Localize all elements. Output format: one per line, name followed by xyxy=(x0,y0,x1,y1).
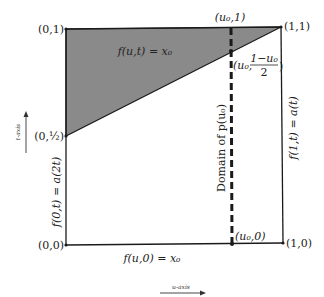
point-0-half xyxy=(64,134,67,137)
shaded-region xyxy=(66,27,281,136)
u-axis-arrowhead-icon xyxy=(200,291,206,296)
label-u0-0: (u₀,0) xyxy=(235,230,266,243)
left-edge-label: f(0,t) = a(2t) xyxy=(50,157,63,228)
label-0-0: (0,0) xyxy=(38,239,64,252)
t-axis-arrowhead-icon xyxy=(24,111,29,117)
label-u0-mid-denominator: 2 xyxy=(261,66,268,79)
label-0-1: (0,1) xyxy=(38,23,64,36)
bottom-edge-label: f(u,0) = x₀ xyxy=(122,252,181,265)
label-u0-mid-numerator: 1−u₀ xyxy=(250,52,278,65)
bottom-edge xyxy=(66,243,283,245)
label-1-0: (1,0) xyxy=(286,237,312,250)
point-1-1 xyxy=(279,25,282,28)
domain-label: Domain of p(u₀) xyxy=(215,104,228,192)
point-u0-mid xyxy=(229,49,233,53)
label-0-half: (0,½) xyxy=(34,130,64,143)
domain-dashed-line xyxy=(231,28,232,244)
label-u0-1: (u₀,1) xyxy=(215,11,246,24)
point-1-0 xyxy=(281,241,284,244)
point-u0-0 xyxy=(230,242,234,246)
region-label: f(u,t) = x₀ xyxy=(117,45,173,58)
homotopy-diagram: (0,1) (1,1) (0,0) (1,0) (0,½) (u₀,1) (u₀… xyxy=(0,0,324,297)
point-0-1 xyxy=(64,27,67,30)
label-1-1: (1,1) xyxy=(284,20,310,33)
right-edge-label: f(1,t) = a(t) xyxy=(287,96,300,160)
t-axis-label: t-axis xyxy=(14,124,21,140)
u-axis-label: u-axis xyxy=(172,283,190,290)
point-0-0 xyxy=(64,243,67,246)
label-u0-mid-suffix: ) xyxy=(279,60,283,73)
